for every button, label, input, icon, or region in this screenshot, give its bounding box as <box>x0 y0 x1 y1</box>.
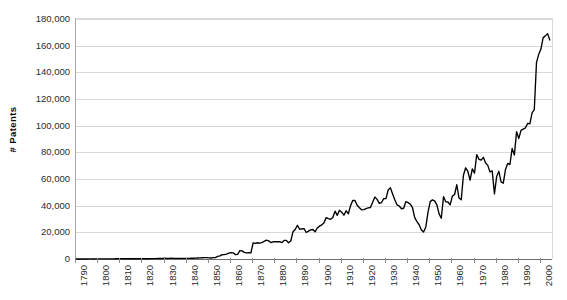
x-axis-tick <box>385 258 386 263</box>
x-axis-tick <box>451 258 452 263</box>
x-axis-tick-labels: 1790180018101820183018401850186018701880… <box>75 265 552 300</box>
x-axis-tick-label: 1980 <box>500 265 510 286</box>
x-axis-tick-label: 1820 <box>145 265 155 286</box>
x-axis-tick-label: 1910 <box>345 265 355 286</box>
x-axis-tick <box>429 258 430 263</box>
x-axis-tick <box>341 258 342 263</box>
x-axis-tick <box>164 258 165 263</box>
x-axis-tick-label: 1990 <box>522 265 532 286</box>
x-axis-tick <box>75 258 76 263</box>
x-axis-tick <box>141 258 142 263</box>
x-axis-tick <box>518 258 519 263</box>
y-axis-tick-label: 80,000 <box>41 146 70 157</box>
y-axis-tick-label: 0 <box>65 253 70 264</box>
x-axis-tick-label: 1890 <box>300 265 310 286</box>
x-axis-tick-label: 1880 <box>278 265 288 286</box>
x-axis-tick-label: 2000 <box>544 265 554 286</box>
x-axis-tick <box>363 258 364 263</box>
y-axis-tick-label: 20,000 <box>41 226 70 237</box>
y-axis-tick-label: 160,000 <box>36 39 70 50</box>
x-axis-tick <box>186 258 187 263</box>
x-axis-tick-label: 1830 <box>168 265 178 286</box>
patents-line-chart: # Patents 020,00040,00060,00080,000100,0… <box>0 0 567 300</box>
y-axis-title-label: # Patents <box>8 106 19 152</box>
y-axis-tick-labels: 020,00040,00060,00080,000100,000120,0001… <box>26 12 75 258</box>
x-axis-tick <box>474 258 475 263</box>
x-axis-tick <box>319 258 320 263</box>
y-axis-title: # Patents <box>0 0 26 258</box>
x-axis-tick <box>252 258 253 263</box>
x-axis-tick <box>230 258 231 263</box>
x-axis-tick-label: 1900 <box>323 265 333 286</box>
x-axis-tick-label: 1950 <box>433 265 443 286</box>
x-axis-tick-label: 1850 <box>212 265 222 286</box>
y-axis-tick-label: 40,000 <box>41 199 70 210</box>
x-axis-tick <box>540 258 541 263</box>
y-axis-tick-label: 60,000 <box>41 173 70 184</box>
plot-area <box>75 18 553 259</box>
x-axis-tick-label: 1800 <box>101 265 111 286</box>
x-axis-tick-label: 1870 <box>256 265 266 286</box>
x-axis-tick-label: 1810 <box>123 265 133 286</box>
series-patents-line <box>76 34 550 259</box>
x-axis-tick <box>296 258 297 263</box>
x-axis-tick <box>407 258 408 263</box>
x-axis-tick <box>496 258 497 263</box>
x-axis-tick <box>208 258 209 263</box>
y-axis-tick-label: 120,000 <box>36 93 70 104</box>
y-axis-tick-label: 180,000 <box>36 13 70 24</box>
x-axis-tick-label: 1960 <box>455 265 465 286</box>
x-axis-tick-label: 1930 <box>389 265 399 286</box>
x-axis-tick-label: 1790 <box>79 265 89 286</box>
x-axis-tick-label: 1840 <box>190 265 200 286</box>
x-axis-tick-label: 1940 <box>411 265 421 286</box>
series-patents <box>76 19 552 259</box>
y-axis-tick-label: 100,000 <box>36 119 70 130</box>
x-axis-tick <box>119 258 120 263</box>
x-axis-tick <box>97 258 98 263</box>
x-axis-tick-label: 1860 <box>234 265 244 286</box>
x-axis-tick <box>274 258 275 263</box>
x-axis-tick-label: 1970 <box>478 265 488 286</box>
x-axis-tick-label: 1920 <box>367 265 377 286</box>
y-axis-tick-label: 140,000 <box>36 66 70 77</box>
